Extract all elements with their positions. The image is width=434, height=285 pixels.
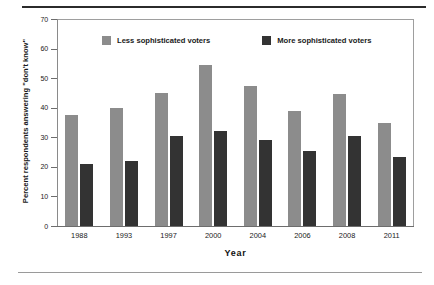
bar xyxy=(110,108,123,226)
x-axis-tick-label: 1988 xyxy=(57,232,101,240)
legend-swatch-icon xyxy=(102,36,111,45)
bar xyxy=(80,164,93,226)
y-axis-tick-label: 10 xyxy=(28,193,48,200)
bar-group xyxy=(378,19,406,226)
y-axis-tick-label: 0 xyxy=(28,223,48,230)
bar-group xyxy=(288,19,316,226)
bar-group xyxy=(65,19,93,226)
y-axis-tick-label: 70 xyxy=(28,16,48,23)
bar xyxy=(288,111,301,226)
x-axis-tick-label: 2004 xyxy=(236,232,280,240)
bar xyxy=(65,115,78,226)
bar-group xyxy=(244,19,272,226)
legend-spacer xyxy=(210,40,262,41)
y-axis-tick-label: 40 xyxy=(28,104,48,111)
bar-group xyxy=(155,19,183,226)
bar xyxy=(214,131,227,226)
x-axis-tick-label: 1997 xyxy=(147,232,191,240)
legend-item-more-sophisticated: More sophisticated voters xyxy=(262,36,371,45)
bars-layer xyxy=(57,19,414,226)
legend-label: Less sophisticated voters xyxy=(117,36,210,45)
legend-swatch-icon xyxy=(262,36,271,45)
bar xyxy=(393,157,406,226)
bar-group xyxy=(110,19,138,226)
x-axis-tick-label: 2006 xyxy=(280,232,324,240)
y-axis-tick-label: 60 xyxy=(28,45,48,52)
x-axis-line xyxy=(57,226,414,227)
bar xyxy=(199,65,212,226)
bar-group xyxy=(333,19,361,226)
y-axis-tick-label: 20 xyxy=(28,163,48,170)
bar xyxy=(170,136,183,226)
bar xyxy=(155,93,168,226)
bar xyxy=(259,140,272,226)
x-axis-tick-label: 2008 xyxy=(325,232,369,240)
y-axis-tick-label: 30 xyxy=(28,134,48,141)
bar-group xyxy=(199,19,227,226)
x-axis-tick-label: 2000 xyxy=(191,232,235,240)
bar xyxy=(244,86,257,226)
bar xyxy=(333,94,346,226)
legend-label: More sophisticated voters xyxy=(277,36,371,45)
bottom-rule-divider xyxy=(18,272,422,273)
x-axis-tick-label: 2011 xyxy=(370,232,414,240)
bar xyxy=(125,161,138,226)
y-axis-tick xyxy=(51,226,57,227)
y-axis-tick-label: 50 xyxy=(28,75,48,82)
bar xyxy=(378,123,391,227)
x-axis-tick-label: 1993 xyxy=(102,232,146,240)
x-axis-title: Year xyxy=(57,248,414,258)
chart-legend: Less sophisticated voters More sophistic… xyxy=(102,36,371,45)
legend-item-less-sophisticated: Less sophisticated voters xyxy=(102,36,210,45)
bar xyxy=(348,136,361,226)
y-axis-title: Percent respondents answering "don't kno… xyxy=(22,16,30,226)
bar xyxy=(303,151,316,226)
top-rule-divider xyxy=(22,6,426,8)
figure-container: 010203040506070 Percent respondents answ… xyxy=(0,0,434,285)
